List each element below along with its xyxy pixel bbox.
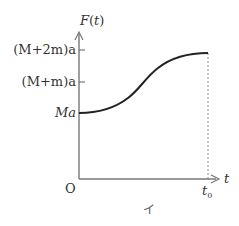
x-axis-label: t xyxy=(224,172,229,185)
figure-caption: イ xyxy=(143,204,155,216)
origin-label: O xyxy=(65,182,76,195)
t0-label: t0 xyxy=(202,184,212,200)
force-curve xyxy=(79,53,208,113)
ytick-label-mma: (M+m)a xyxy=(0,75,76,88)
ytick-label-ma: Ma xyxy=(0,106,76,119)
y-axis-label: F(t) xyxy=(80,14,104,27)
ytick-label-m2ma: (M+2m)a xyxy=(0,43,76,56)
